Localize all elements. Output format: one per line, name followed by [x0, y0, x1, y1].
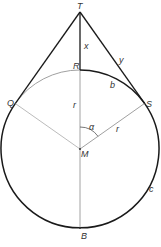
label-R: R: [73, 61, 80, 71]
arc-QR: [15, 70, 80, 103]
label-B: B: [81, 231, 87, 241]
label-b: b: [110, 80, 115, 90]
label-c: c: [149, 184, 154, 194]
label-T: T: [77, 1, 84, 11]
geometry-diagram: T R Q S M B x y b r r α c: [0, 0, 161, 247]
label-Q: Q: [7, 98, 14, 108]
label-y: y: [118, 55, 124, 65]
label-x: x: [83, 41, 89, 51]
tangent-TQ: [15, 12, 80, 103]
label-M: M: [81, 149, 89, 159]
label-alpha: α: [89, 122, 95, 132]
point-B: [79, 227, 81, 229]
label-S: S: [146, 99, 152, 109]
radius-MQ: [16, 104, 80, 149]
label-r-slant: r: [116, 124, 120, 134]
label-r-vertical: r: [73, 100, 77, 110]
